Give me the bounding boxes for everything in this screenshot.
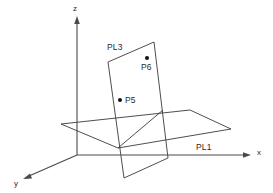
axis-label-z: z: [73, 4, 77, 13]
plane-pl3-outline: [108, 42, 168, 178]
plane-pl3-face: [108, 42, 168, 178]
plane-label-pl1: PL1: [196, 142, 212, 152]
axis-y-line: [29, 155, 77, 176]
axis-label-y: y: [14, 179, 18, 188]
axis-z-arrowhead: [74, 16, 80, 24]
axis-z: [74, 16, 80, 155]
point-label-p5: P5: [125, 95, 136, 105]
axis-label-x: x: [257, 148, 261, 157]
axis-x: [77, 152, 251, 158]
axis-y-arrowhead: [23, 173, 32, 179]
point-p5-dot: [118, 98, 122, 102]
point-p6-dot: [145, 56, 149, 60]
axis-y: [23, 155, 77, 179]
point-label-p6: P6: [141, 62, 152, 72]
figure-canvas: z x y PL3 PL1 P5 P6: [0, 0, 273, 193]
geometry-diagram: z x y PL3 PL1 P5 P6: [0, 0, 273, 193]
plane-label-pl3: PL3: [107, 42, 123, 52]
axis-x-arrowhead: [243, 152, 251, 158]
plane-pl3: [108, 42, 168, 178]
